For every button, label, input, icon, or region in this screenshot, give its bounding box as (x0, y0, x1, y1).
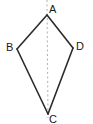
vertex-label-c: C (49, 114, 57, 124)
kite-figure-svg (0, 0, 93, 124)
edge-c-d (48, 48, 73, 114)
edge-d-a (47, 15, 73, 48)
vertex-label-d: D (76, 41, 84, 52)
vertex-label-b: B (6, 42, 13, 53)
kite-diagram: A B D C (0, 0, 93, 124)
vertex-label-a: A (49, 4, 56, 15)
axis-of-symmetry-dashed-line (47, 0, 48, 118)
edge-a-b (17, 15, 47, 49)
edge-b-c (17, 49, 48, 114)
